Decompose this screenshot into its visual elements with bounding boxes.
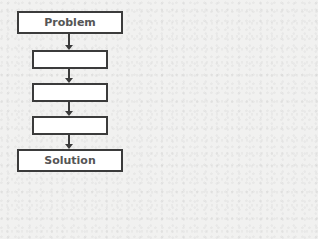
arrow-down-icon [68,34,70,46]
solution-label: Solution [44,154,96,167]
step-box-1 [32,50,108,69]
problem-label: Problem [44,16,96,29]
arrow-down-icon [68,69,70,79]
step-box-3 [32,116,108,135]
solution-box: Solution [17,149,123,172]
step-box-2 [32,83,108,102]
arrow-down-icon [68,102,70,112]
problem-box: Problem [17,11,123,34]
arrow-down-icon [68,135,70,145]
